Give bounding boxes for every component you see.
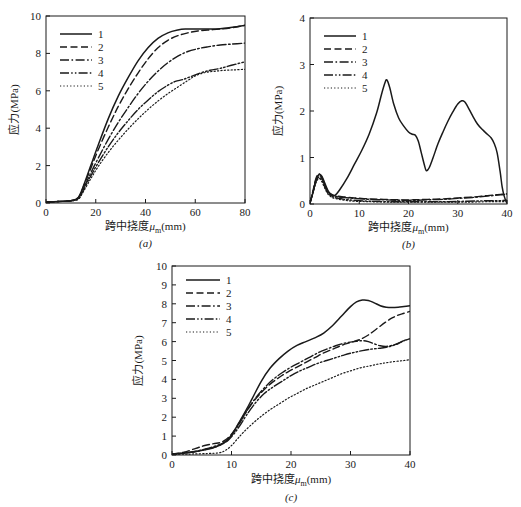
y-tick-label-c: 2 — [162, 411, 168, 423]
curves-a — [46, 25, 245, 202]
panel-caption-c: (c) — [285, 491, 298, 504]
subplot-c: 010203040012345678910应力(MPa)跨中挠度μm(mm)(c… — [122, 252, 422, 505]
subplot-a: 0204060800246810应力(MPa)跨中挠度μm(mm)(a)1234… — [2, 2, 254, 250]
x-tick-label-c: 20 — [286, 458, 298, 470]
legend-label-c-2: 2 — [226, 287, 232, 299]
legend-label-b-3: 3 — [362, 56, 368, 68]
y-axis-title-b: 应力(MPa) — [271, 86, 285, 136]
x-tick-label-a: 60 — [190, 206, 202, 218]
y-tick-label-b: 0 — [300, 198, 306, 210]
x-tick-label-b: 0 — [307, 207, 313, 219]
plot-frame-a — [46, 16, 245, 203]
x-axis-title-a: 跨中挠度μm(mm) — [105, 219, 186, 235]
legend-label-c-3: 3 — [226, 300, 232, 312]
y-tick-label-a: 8 — [36, 47, 42, 59]
figure-container: 0204060800246810应力(MPa)跨中挠度μm(mm)(a)1234… — [0, 0, 521, 507]
legend-label-c-4: 4 — [226, 313, 232, 325]
legend-label-b-1: 1 — [362, 30, 368, 42]
y-tick-label-b: 3 — [300, 59, 306, 71]
curve-c-series-1 — [172, 300, 410, 454]
curve-a-series-1 — [46, 25, 245, 202]
y-tick-label-c: 9 — [162, 279, 168, 291]
y-tick-label-a: 10 — [30, 10, 42, 22]
subplot-b: 01020304001234应力(MPa)跨中挠度μm(mm)(b)12345 — [262, 2, 518, 250]
x-tick-label-b: 30 — [452, 207, 464, 219]
y-tick-label-a: 2 — [36, 160, 42, 172]
legend-label-a-3: 3 — [98, 54, 104, 66]
y-tick-label-a: 6 — [36, 85, 42, 97]
x-tick-label-c: 0 — [169, 458, 175, 470]
plot-frame-c — [172, 266, 410, 455]
legend-c: 12345 — [186, 274, 232, 338]
x-tick-label-a: 20 — [90, 206, 102, 218]
x-tick-label-c: 30 — [345, 458, 357, 470]
legend-a: 12345 — [60, 28, 104, 92]
x-tick-label-a: 80 — [240, 206, 252, 218]
x-tick-label-b: 20 — [403, 207, 415, 219]
panel-caption-b: (b) — [402, 238, 415, 250]
y-tick-label-c: 6 — [162, 336, 168, 348]
y-tick-label-b: 1 — [300, 152, 306, 164]
y-tick-label-c: 7 — [162, 317, 168, 329]
y-tick-label-b: 4 — [300, 12, 306, 24]
y-tick-label-c: 5 — [162, 355, 168, 367]
curve-c-series-5 — [172, 360, 410, 455]
y-tick-label-b: 2 — [300, 105, 306, 117]
y-tick-label-c: 8 — [162, 298, 168, 310]
curve-a-series-4 — [46, 62, 245, 202]
y-tick-label-a: 0 — [36, 197, 42, 209]
x-tick-label-a: 0 — [43, 206, 49, 218]
curve-a-series-5 — [46, 69, 245, 202]
legend-label-a-2: 2 — [98, 41, 104, 53]
curves-b — [310, 80, 507, 203]
y-tick-label-c: 1 — [162, 430, 168, 442]
legend-label-b-4: 4 — [362, 69, 368, 81]
curve-c-series-2 — [172, 311, 410, 454]
legend-label-c-1: 1 — [226, 274, 232, 286]
y-axis-title-c: 应力(MPa) — [131, 335, 145, 385]
panel-caption-a: (a) — [139, 237, 152, 250]
legend-label-c-5: 5 — [226, 326, 232, 338]
legend-label-a-5: 5 — [98, 80, 104, 92]
x-axis-title-c: 跨中挠度μm(mm) — [251, 472, 332, 488]
x-tick-label-a: 40 — [140, 206, 152, 218]
y-tick-label-c: 10 — [156, 260, 168, 272]
y-tick-label-c: 0 — [162, 449, 168, 461]
curves-c — [172, 300, 410, 455]
x-tick-label-c: 10 — [226, 458, 238, 470]
plot-frame-b — [310, 18, 507, 204]
curve-a-series-3 — [46, 43, 245, 202]
legend-label-b-2: 2 — [362, 43, 368, 55]
y-tick-label-a: 4 — [36, 122, 42, 134]
x-tick-label-b: 10 — [354, 207, 366, 219]
x-tick-label-b: 40 — [502, 207, 514, 219]
y-tick-label-c: 4 — [162, 373, 168, 385]
y-axis-title-a: 应力(MPa) — [7, 84, 21, 134]
legend-label-a-1: 1 — [98, 28, 104, 40]
legend-b: 12345 — [324, 30, 368, 94]
legend-label-a-4: 4 — [98, 67, 104, 79]
y-tick-label-c: 3 — [162, 392, 168, 404]
curve-b-series-1 — [310, 80, 507, 203]
x-tick-label-c: 40 — [405, 458, 417, 470]
legend-label-b-5: 5 — [362, 82, 368, 94]
x-axis-title-b: 跨中挠度μm(mm) — [368, 220, 449, 236]
